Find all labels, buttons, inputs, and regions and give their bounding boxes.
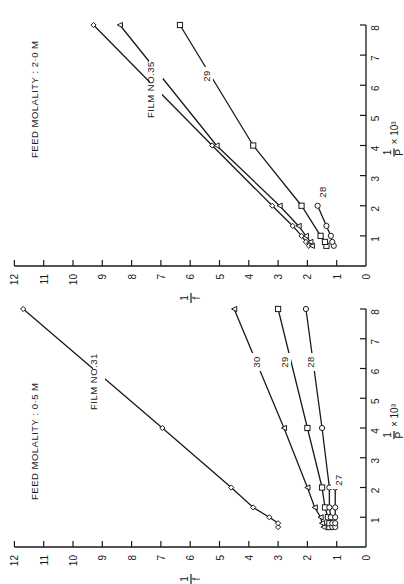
data-point-film-30 <box>232 306 237 311</box>
panel-feed-0-5M: 0123456789101112123456781f1P× 10³3029282… <box>9 306 404 584</box>
x-tick-label: 2 <box>370 206 381 212</box>
data-point-film-30 <box>117 22 122 27</box>
y-axis-label: 1f <box>179 293 202 303</box>
y-tick-label: 4 <box>244 555 255 561</box>
x-label-denominator: P <box>394 431 404 438</box>
series-label-film-29: 29 <box>201 70 212 82</box>
data-point-film-27 <box>333 521 338 526</box>
data-point-film-29 <box>305 425 310 430</box>
data-point-film-27 <box>333 515 338 520</box>
data-point-film-28 <box>330 239 335 244</box>
y-tick-label: 3 <box>273 274 284 280</box>
film-label-bottom: FILM NO.31 <box>88 353 99 410</box>
y-tick-label: 9 <box>97 274 108 280</box>
series-label-film-29: 29 <box>279 356 290 368</box>
x-label-denominator: P <box>394 149 404 156</box>
x-label-multiplier: × 10³ <box>389 403 400 427</box>
x-tick-label: 7 <box>370 55 381 61</box>
series-line-film-30 <box>120 25 312 246</box>
y-tick-label: 6 <box>185 555 196 561</box>
x-tick-label: 2 <box>370 487 381 493</box>
data-point-film-29 <box>319 485 324 490</box>
series-label-film-28: 28 <box>317 186 328 198</box>
series-line-film-31 <box>23 309 278 527</box>
y-tick-label: 11 <box>39 555 50 566</box>
x-tick-label: 3 <box>370 175 381 181</box>
data-point-film-28 <box>327 505 332 510</box>
x-axis-label: 1P× 10³ <box>382 121 404 157</box>
y-tick-label: 8 <box>127 274 138 280</box>
x-axis-label: 1P× 10³ <box>382 403 404 439</box>
y-tick-label: 4 <box>244 274 255 280</box>
y-tick-label: 7 <box>156 274 167 280</box>
y-tick-label: 1 <box>332 555 343 561</box>
y-tick-label: 1 <box>332 274 343 280</box>
y-label-numerator: 1 <box>179 576 190 582</box>
x-tick-label: 4 <box>370 428 381 434</box>
y-tick-label: 12 <box>9 555 20 567</box>
data-point-film-27 <box>333 505 338 510</box>
y-tick-label: 5 <box>215 274 226 280</box>
data-point-film-29 <box>318 233 323 238</box>
x-label-numerator: 1 <box>382 149 393 155</box>
data-point-film-30 <box>305 485 310 490</box>
data-point-film-29 <box>299 203 304 208</box>
data-point-film-29 <box>177 22 182 27</box>
x-label-numerator: 1 <box>382 432 393 438</box>
series-label-film-28: 28 <box>305 356 316 368</box>
data-point-film-30 <box>319 521 324 526</box>
data-point-film-28 <box>324 223 329 228</box>
data-point-film-30 <box>281 425 286 430</box>
data-point-film-28 <box>315 203 320 208</box>
panel-title-top: FEED MOLALITY : 2·0 M <box>29 41 40 159</box>
x-tick-label: 4 <box>370 145 381 151</box>
y-tick-label: 5 <box>215 555 226 561</box>
y-tick-label: 2 <box>302 555 313 561</box>
data-point-film-28 <box>319 425 324 430</box>
data-point-film-30 <box>312 505 317 510</box>
chart-figure: 0123456789101112123456781f1P× 10³302928 … <box>0 0 404 584</box>
y-tick-label: 9 <box>97 555 108 561</box>
y-tick-label: 8 <box>127 555 138 561</box>
x-tick-label: 1 <box>370 236 381 242</box>
data-point-film-29 <box>276 306 281 311</box>
y-tick-label: 12 <box>9 274 20 286</box>
y-tick-label: 11 <box>39 274 50 285</box>
data-point-film-28 <box>303 306 308 311</box>
series-label-film-27: 27 <box>333 474 344 486</box>
y-tick-label: 10 <box>68 274 79 286</box>
y-tick-label: 0 <box>361 555 372 561</box>
x-tick-label: 5 <box>370 398 381 404</box>
panel-title-bottom: FEED MOLALITY : 0·5 M <box>29 383 40 501</box>
x-tick-label: 3 <box>370 458 381 464</box>
x-tick-label: 6 <box>370 85 381 91</box>
y-axis-label: 1f <box>179 574 202 584</box>
y-tick-label: 2 <box>302 274 313 280</box>
series-line-film-29 <box>278 309 329 527</box>
y-label-numerator: 1 <box>179 295 190 301</box>
series-label-film-30: 30 <box>251 356 262 368</box>
x-tick-label: 7 <box>370 339 381 345</box>
y-tick-label: 0 <box>361 274 372 280</box>
y-tick-label: 6 <box>185 274 196 280</box>
y-label-denominator: f <box>191 577 202 580</box>
y-tick-label: 3 <box>273 555 284 561</box>
y-tick-label: 10 <box>68 555 79 567</box>
data-point-film-29 <box>251 143 256 148</box>
film-label-top: FILM NO.35 <box>145 61 156 118</box>
panel-feed-2-0M: 0123456789101112123456781f1P× 10³302928 <box>9 22 404 303</box>
x-tick-label: 1 <box>370 517 381 523</box>
x-label-multiplier: × 10³ <box>389 121 400 145</box>
x-tick-label: 8 <box>370 25 381 31</box>
data-point-film-28 <box>328 233 333 238</box>
x-tick-label: 6 <box>370 368 381 374</box>
y-label-denominator: f <box>191 296 202 299</box>
x-tick-label: 5 <box>370 115 381 121</box>
y-tick-label: 7 <box>156 555 167 561</box>
data-point-film-29 <box>322 239 327 244</box>
series-line-film-35 <box>94 25 309 246</box>
x-tick-label: 8 <box>370 309 381 315</box>
